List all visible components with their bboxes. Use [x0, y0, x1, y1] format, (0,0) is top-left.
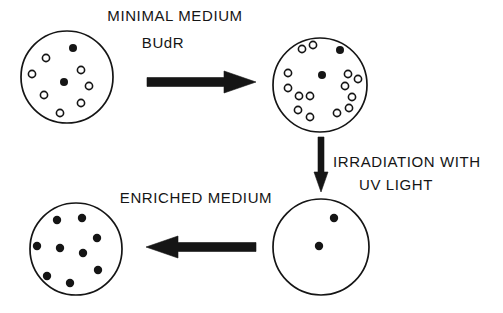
filled-cell-marker [336, 46, 344, 54]
filled-cell-marker [66, 279, 74, 287]
open-cell-marker [306, 92, 313, 99]
filled-cell-marker [53, 216, 61, 224]
open-cell-marker [77, 66, 84, 73]
open-cell-marker [284, 84, 291, 91]
filled-cell-marker [79, 249, 87, 257]
filled-cell-marker [33, 242, 41, 250]
filled-cell-marker [330, 214, 338, 222]
open-cell-marker [309, 41, 316, 48]
filled-cell-marker [69, 44, 77, 52]
open-cell-marker [294, 106, 301, 113]
label-budr: BUdR [142, 34, 184, 51]
open-cell-marker [298, 45, 305, 52]
filled-cell-marker [318, 71, 326, 79]
label-minimal-medium: MINIMAL MEDIUM [107, 7, 242, 24]
open-cell-marker [348, 93, 355, 100]
filled-cell-marker [94, 266, 102, 274]
petri-dish-outline [30, 203, 122, 295]
open-cell-marker [85, 82, 92, 89]
diagram-canvas: MINIMAL MEDIUM BUdR IRRADIATION WITH UV … [0, 0, 503, 313]
open-cell-marker [295, 92, 302, 99]
filled-cell-marker [78, 214, 86, 222]
label-enriched-medium: ENRICHED MEDIUM [120, 189, 272, 206]
plate-enriched [30, 203, 122, 295]
filled-cell-marker [93, 234, 101, 242]
open-cell-marker [56, 109, 63, 116]
filled-cell-marker [43, 272, 51, 280]
open-cell-marker [344, 70, 351, 77]
open-cell-marker [40, 91, 47, 98]
label-irradiation-with: IRRADIATION WITH [333, 153, 481, 170]
open-cell-marker [306, 113, 313, 120]
open-cell-marker [354, 75, 361, 82]
open-cell-marker [42, 54, 49, 61]
plate-after-uv [273, 199, 369, 295]
filled-cell-marker [56, 244, 64, 252]
filled-cell-marker [315, 242, 323, 250]
label-uv-light: UV LIGHT [359, 176, 433, 193]
plate-after-budr [273, 38, 367, 132]
open-cell-marker [341, 82, 348, 89]
open-cell-marker [333, 109, 340, 116]
open-cell-marker [77, 99, 84, 106]
open-cell-marker [28, 70, 35, 77]
filled-cell-marker [60, 78, 68, 86]
open-cell-marker [284, 69, 291, 76]
open-cell-marker [345, 104, 352, 111]
top-left-plate [21, 31, 113, 123]
budr-enrichment-diagram: MINIMAL MEDIUM BUdR IRRADIATION WITH UV … [0, 0, 503, 313]
